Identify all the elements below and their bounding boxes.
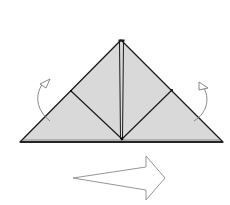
folded-paper-triangle <box>20 40 223 142</box>
apex-cap <box>119 40 125 42</box>
right-crease-node <box>171 89 173 91</box>
left-crease-node <box>70 90 72 92</box>
center-point <box>121 138 124 141</box>
origami-diagram <box>0 0 230 205</box>
next-step-arrow-icon <box>73 156 165 200</box>
